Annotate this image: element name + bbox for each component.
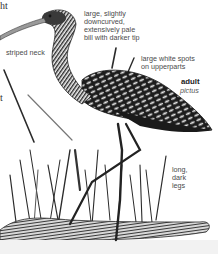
label-bill: large, slightly downcurved, extensively … xyxy=(84,10,140,42)
label-upperparts: large white spots on upperparts xyxy=(141,55,195,71)
bird-illustration: ht t large, slightly downcurved, extensi… xyxy=(0,0,218,254)
label-bill-line-4: bill with darker tip xyxy=(84,34,140,42)
bird-bill xyxy=(0,18,46,40)
label-subspecies: pictus xyxy=(180,87,199,95)
cut-text-top: ht xyxy=(0,0,8,11)
label-legs-line-3: legs xyxy=(172,182,188,190)
label-legs: long, dark legs xyxy=(172,166,188,190)
label-age: adult xyxy=(181,78,200,86)
cut-text-mid: t xyxy=(0,92,3,103)
label-neck: striped neck xyxy=(6,49,45,57)
log xyxy=(0,218,209,241)
label-upperparts-line-2: on upperparts xyxy=(141,63,195,71)
